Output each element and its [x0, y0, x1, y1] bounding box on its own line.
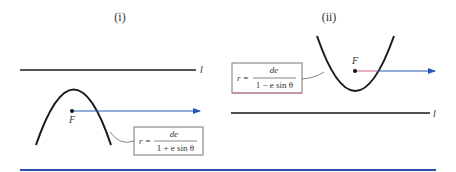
panel-i: (i) l F r = de 1 + e sin θ [20, 10, 203, 155]
panel-ii: (ii) F r = de 1 − e sin θ l [231, 10, 436, 119]
leader-line [110, 132, 134, 142]
focus-point [353, 69, 357, 73]
equation-lhs: r = [139, 136, 151, 146]
equation-denominator: 1 + e sin θ [157, 143, 194, 153]
panel-i-label: (i) [114, 10, 125, 24]
focus-label: F [351, 55, 359, 66]
leader-line [302, 72, 324, 79]
focus-point [70, 109, 74, 113]
conic-diagram: (i) l F r = de 1 + e sin θ (ii) F r = de… [0, 0, 456, 172]
directrix-label: l [200, 64, 203, 75]
focus-label: F [68, 114, 76, 125]
directrix-label: l [433, 108, 436, 119]
equation-numerator: de [170, 129, 179, 139]
equation-lhs: r = [237, 73, 249, 83]
equation-numerator: de [270, 65, 279, 75]
panel-ii-label: (ii) [322, 10, 337, 24]
equation-denominator: 1 − e sin θ [256, 80, 293, 90]
